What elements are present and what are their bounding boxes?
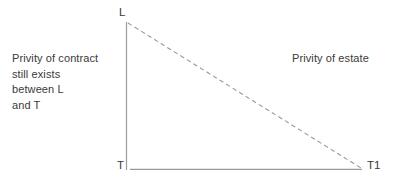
annotation-privity-of-estate: Privity of estate	[292, 51, 392, 67]
privity-diagram: L T T1 Privity of contract still exists …	[0, 0, 397, 181]
node-label-t1: T1	[367, 159, 380, 171]
annotation-privity-of-contract: Privity of contract still exists between…	[12, 51, 122, 113]
node-label-l: L	[119, 6, 125, 18]
node-label-t: T	[117, 159, 124, 171]
edge-l-to-t1-dashed	[128, 23, 361, 168]
